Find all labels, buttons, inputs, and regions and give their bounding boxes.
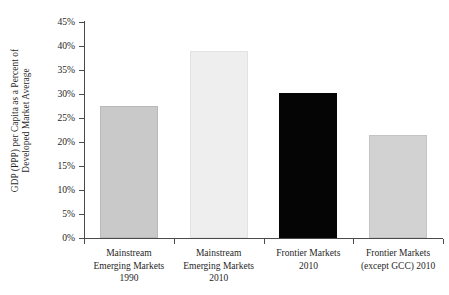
- x-axis-tick-mark: [264, 239, 265, 244]
- y-axis-tick-label: 25%: [42, 113, 75, 123]
- y-axis-tick-label: 45%: [42, 17, 75, 27]
- bar-1: [100, 106, 158, 238]
- x-axis-tick-mark: [443, 239, 444, 244]
- bar-chart-figure: GDP (PPP) per Capita as a Percent of Dev…: [0, 0, 449, 295]
- x-axis-category-label-line: 2010: [258, 260, 360, 273]
- y-axis-tick-label: 0%: [42, 233, 75, 243]
- x-axis-category-label-line: Emerging Markets: [168, 260, 270, 273]
- x-axis-category-label-line: Mainstream: [168, 247, 270, 260]
- x-axis-category-label-line: 1990: [78, 272, 180, 285]
- y-axis-title: GDP (PPP) per Capita as a Percent of Dev…: [0, 0, 44, 240]
- plot-area: [84, 22, 443, 238]
- x-axis-category-label: MainstreamEmerging Markets2010: [168, 247, 270, 285]
- x-axis-category-label: MainstreamEmerging Markets1990: [78, 247, 180, 285]
- bar-2: [190, 51, 248, 238]
- y-axis-tick-label: 40%: [42, 41, 75, 51]
- x-axis-category-label: Frontier Markets(except GCC) 2010: [347, 247, 449, 272]
- y-axis-tick-label: 35%: [42, 65, 75, 75]
- x-axis-category-label-line: (except GCC) 2010: [347, 260, 449, 273]
- y-axis-tick-label: 30%: [42, 89, 75, 99]
- x-axis-tick-mark: [84, 239, 85, 244]
- x-axis-category-label-line: 2010: [168, 272, 270, 285]
- x-axis-category-label-line: Frontier Markets: [347, 247, 449, 260]
- x-axis-category-label-line: Mainstream: [78, 247, 180, 260]
- x-axis-category-label-line: Emerging Markets: [78, 260, 180, 273]
- y-axis-tick-label: 20%: [42, 137, 75, 147]
- y-axis-tick: 0%: [0, 238, 449, 239]
- x-axis-category-labels: MainstreamEmerging Markets1990Mainstream…: [84, 247, 443, 293]
- x-axis-category-label-line: Frontier Markets: [258, 247, 360, 260]
- bar-4: [369, 135, 427, 238]
- bar-3: [279, 93, 337, 238]
- x-axis-tick-mark: [174, 239, 175, 244]
- y-axis-tick-label: 5%: [42, 209, 75, 219]
- x-axis-tick-mark: [353, 239, 354, 244]
- x-axis-category-label: Frontier Markets2010: [258, 247, 360, 272]
- y-axis-tick-label: 10%: [42, 185, 75, 195]
- y-axis-tick-label: 15%: [42, 161, 75, 171]
